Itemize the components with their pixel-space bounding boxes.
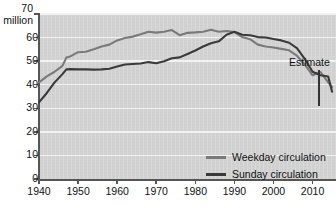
legend-swatch <box>206 173 226 176</box>
legend-label: Sunday circulation <box>232 168 318 180</box>
legend-item: Weekday circulation <box>206 150 326 164</box>
estimate-annotation-label: Estimate <box>289 56 330 68</box>
legend-label: Weekday circulation <box>232 151 326 163</box>
legend: Weekday circulationSunday circulation <box>206 150 326 184</box>
line-chart: 0102030405060 19401950196019701980199020… <box>0 0 336 216</box>
estimate-annotation-leader-line <box>318 70 320 106</box>
legend-item: Sunday circulation <box>206 167 326 181</box>
legend-swatch <box>206 156 226 159</box>
